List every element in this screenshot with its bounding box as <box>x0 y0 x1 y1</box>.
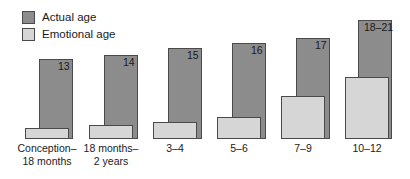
chart-figure: Actual age Emotional age 13Conception– 1… <box>0 0 410 179</box>
bar-value-label: 17 <box>315 40 327 51</box>
bar-value-label: 18–21 <box>364 22 393 33</box>
bar-emotional-age <box>25 128 69 139</box>
bar-emotional-age <box>89 125 133 139</box>
bar-value-label: 14 <box>123 57 135 68</box>
bar-emotional-age <box>153 122 197 139</box>
bar-emotional-age <box>217 117 261 139</box>
chart-plot-area: 13Conception– 18 months1418 months– 2 ye… <box>0 0 410 179</box>
bar-emotional-age <box>281 96 325 139</box>
x-axis-category-label: 10–12 <box>326 142 408 155</box>
bar-emotional-age <box>345 77 389 139</box>
bar-value-label: 16 <box>251 45 263 56</box>
bar-value-label: 13 <box>58 61 70 72</box>
bar-value-label: 15 <box>187 50 199 61</box>
